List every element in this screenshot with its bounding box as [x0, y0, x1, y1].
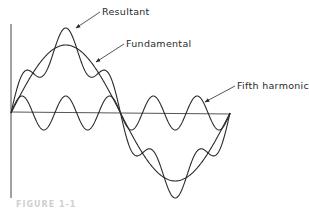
- resultant-arrow: [76, 12, 100, 28]
- waveform-diagram: [0, 0, 309, 208]
- figure-caption: FIGURE 1-1: [16, 200, 76, 208]
- resultant-wave: [11, 28, 230, 198]
- fifth-harmonic-arrow: [205, 86, 235, 102]
- fundamental-label: Fundamental: [126, 38, 191, 49]
- resultant-label: Resultant: [102, 6, 150, 17]
- fifth-harmonic-label: Fifth harmonic: [237, 80, 309, 91]
- fundamental-arrow: [96, 44, 124, 62]
